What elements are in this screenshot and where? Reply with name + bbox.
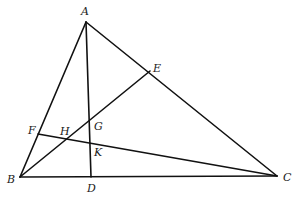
- segments: [20, 22, 277, 177]
- cevian-be: [20, 71, 150, 177]
- label-k: K: [93, 146, 103, 159]
- label-a: A: [80, 5, 89, 18]
- point-labels: A B C D E F G H K: [6, 5, 292, 195]
- label-e: E: [152, 62, 161, 75]
- label-b: B: [6, 173, 15, 186]
- side-ab: [20, 22, 86, 177]
- side-bc: [20, 176, 277, 177]
- cevian-ad: [86, 22, 91, 177]
- triangle-diagram: A B C D E F G H K: [0, 0, 299, 200]
- label-f: F: [27, 124, 36, 137]
- label-g: G: [94, 120, 103, 133]
- cevian-fc: [38, 134, 277, 176]
- label-h: H: [59, 125, 70, 138]
- label-d: D: [86, 182, 96, 195]
- label-c: C: [283, 171, 292, 184]
- geometry-figure: A B C D E F G H K: [0, 0, 299, 200]
